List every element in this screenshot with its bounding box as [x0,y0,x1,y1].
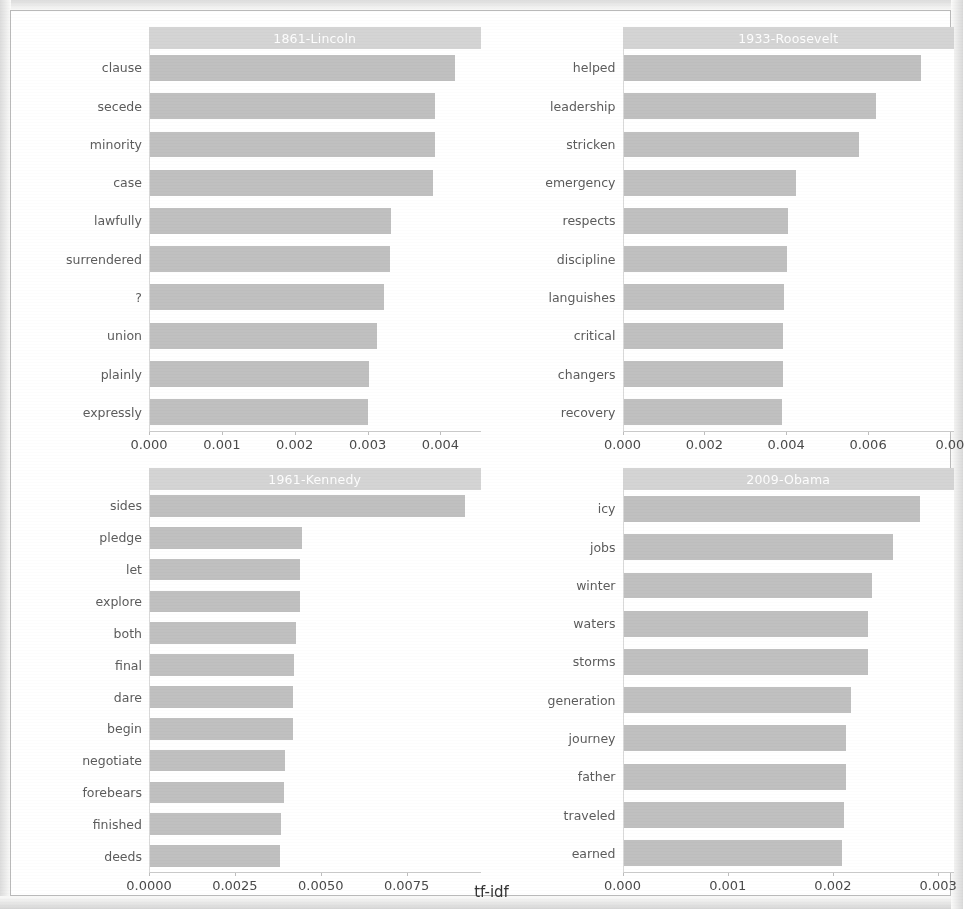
x-tick-mark [321,873,322,876]
x-tick-mark [833,873,834,876]
bar [150,93,435,119]
y-tick-label: deeds [104,850,142,864]
plot-area [623,49,955,432]
bar [150,361,369,387]
bar [624,208,788,234]
plot-area [149,49,481,432]
y-tick-label: clause [102,61,142,75]
bar-row [624,605,955,643]
bar-row [150,617,481,649]
y-tick-label: journey [569,732,616,746]
bar [150,622,296,644]
bar [150,559,300,581]
bar [150,399,368,425]
x-tick-mark [149,432,150,435]
bar-row [150,125,481,163]
bar [150,845,280,867]
x-tick-mark [704,432,705,435]
x-tick-label: 0.002 [276,437,313,452]
bar-row [150,164,481,202]
bar-row [624,164,955,202]
x-tick-label: 0.00 [935,437,964,452]
bar [624,649,868,675]
bar [624,611,868,637]
bar [150,284,384,310]
x-tick-mark [407,873,408,876]
y-tick-label: plainly [101,368,142,382]
figure-frame: 1861-Lincolnclausesecedeminoritycaselawf… [10,10,951,896]
bar [624,170,796,196]
bar [150,527,302,549]
x-tick-mark [235,873,236,876]
bar [150,208,391,234]
x-tick-mark [149,873,150,876]
y-axis-labels: helpedleadershipstrickenemergencyrespect… [503,49,623,432]
plot-area [149,490,481,873]
y-tick-label: recovery [561,406,616,420]
y-tick-label: secede [98,100,142,114]
bar [150,246,390,272]
x-tick-mark [222,432,223,435]
bar-row [150,393,481,431]
bar-row [624,125,955,163]
y-tick-label: sides [110,499,142,513]
y-tick-label: let [126,563,142,577]
plot-area [623,490,955,873]
facet-panel: 2009-Obamaicyjobswinterwatersstormsgener… [503,468,955,899]
bar [150,718,293,740]
y-tick-label: union [107,329,142,343]
x-tick-label: 0.000 [604,437,641,452]
y-tick-label: traveled [564,809,616,823]
facet-strip-title: 2009-Obama [623,468,955,490]
facet-panel: 1961-Kennedysidespledgeletexplorebothfin… [29,468,481,899]
y-tick-label: father [578,770,616,784]
y-tick-label: leadership [550,100,615,114]
bar [624,284,784,310]
x-tick-mark [786,432,787,435]
bar-row [150,808,481,840]
y-tick-label: negotiate [82,754,142,768]
bar-row [150,681,481,713]
bar [150,591,300,613]
y-tick-label: begin [107,722,142,736]
x-tick-mark [868,432,869,435]
bar-row [150,49,481,87]
bar [150,782,284,804]
x-tick-mark [623,432,624,435]
bar-row [150,202,481,240]
y-tick-label: stricken [566,138,615,152]
bar [624,764,846,790]
facet-panel: 1861-Lincolnclausesecedeminoritycaselawf… [29,27,481,458]
bar-row [624,757,955,795]
y-tick-label: critical [574,329,616,343]
bar [150,170,433,196]
y-axis-labels: clausesecedeminoritycaselawfullysurrende… [29,49,149,432]
bar-row [624,316,955,354]
y-tick-label: forebears [82,786,142,800]
bar [624,323,783,349]
bar-row [624,355,955,393]
bar [150,132,435,158]
bar [624,573,873,599]
bar [150,323,377,349]
x-axis-title: tf-idf [29,883,954,901]
bar [150,495,465,517]
bar-row [624,278,955,316]
bar-row [624,643,955,681]
bar [624,132,860,158]
y-tick-label: generation [548,694,616,708]
y-tick-label: helped [573,61,616,75]
bar-row [624,490,955,528]
bar-row [150,240,481,278]
tfidf-facet-figure: 1861-Lincolnclausesecedeminoritycaselawf… [29,27,954,899]
facet-strip-title: 1861-Lincoln [149,27,481,49]
bar [624,361,783,387]
bar-row [150,490,481,522]
y-tick-label: changers [558,368,616,382]
y-axis-labels: icyjobswinterwatersstormsgenerationjourn… [503,490,623,873]
bar-row [624,681,955,719]
x-tick-mark [938,873,939,876]
bar-row [150,554,481,586]
bar-row [150,87,481,125]
